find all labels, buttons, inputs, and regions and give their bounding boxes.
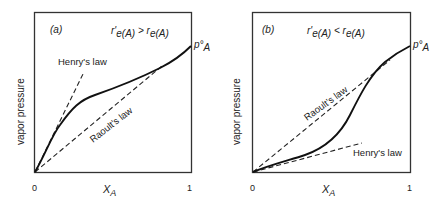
panel-label-b: (b)	[262, 24, 274, 35]
henrys-law-line-b	[253, 143, 362, 172]
x-axis-label-a: XA	[102, 183, 116, 198]
x-tick-1-b: 1	[407, 183, 412, 193]
panel-label-a: (a)	[50, 24, 62, 35]
raoults-law-line-a	[35, 66, 162, 172]
pure-vapor-pressure-label-a: p°A	[193, 39, 211, 53]
pure-vapor-pressure-label-b: p°A	[412, 39, 430, 53]
henrys-law-label-b: Henry's law	[353, 147, 402, 158]
x-tick-1-a: 1	[187, 183, 192, 193]
x-axis-label-b: XA	[321, 183, 335, 198]
condition-label-b: r'e(A) < re(A)	[307, 25, 365, 39]
y-axis-label-b: vapor pressure	[231, 78, 242, 145]
y-axis-label-a: vapor pressure	[15, 78, 26, 145]
henrys-law-label-a: Henry's law	[58, 56, 107, 67]
raoults-law-label-a: Raoult's law	[87, 104, 134, 144]
panel-b: (b) r'e(A) < re(A) Raoult's law Henry's …	[231, 13, 430, 199]
x-tick-0-b: 0	[250, 183, 255, 193]
condition-label-a: r'e(A) > re(A)	[111, 25, 169, 39]
raoults-law-label-b: Raoult's law	[302, 84, 350, 123]
panel-a: (a) r'e(A) > re(A) Henry's law Raoult's …	[15, 13, 211, 199]
x-tick-0-a: 0	[32, 183, 37, 193]
figure: (a) r'e(A) > re(A) Henry's law Raoult's …	[0, 0, 442, 204]
